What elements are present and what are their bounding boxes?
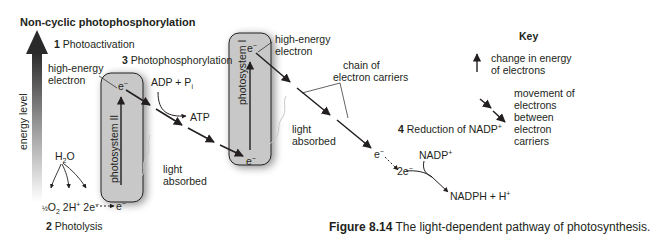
light-absorbed-label-2: lightabsorbed	[292, 123, 336, 147]
adp-label: ADP + Pi	[151, 76, 193, 88]
axis-label-energy: energy level	[17, 93, 29, 150]
key-item-electron-movement: movement of electrons between electron c…	[514, 87, 575, 147]
step-1-label: 1 Photoactivation	[54, 38, 135, 50]
high-energy-electron-label-1: high-energyelectron	[48, 62, 103, 86]
step-3-label: 3 Photophosphorylation	[122, 54, 232, 66]
key-item-energy-change: change in energyof electrons	[491, 52, 572, 76]
nadph-label: NADPH + H+	[450, 190, 510, 202]
electron-ps2-bottom: e−	[116, 200, 126, 212]
step-4-label: 4 Reduction of NADP+	[398, 123, 502, 135]
chain-of-carriers-label: chain ofelectron carriers	[333, 59, 408, 83]
nadp-label: NADP+	[419, 149, 452, 161]
photolysis-arrows	[51, 163, 86, 188]
nadp-merge	[423, 161, 448, 192]
key-dashed-arrow-icon	[480, 99, 505, 122]
two-e-label: 2e−	[397, 165, 413, 177]
chain-ps2-to-ps1	[126, 90, 243, 156]
key-title: Key	[519, 30, 538, 42]
step-2-label: 2 Photolysis	[46, 220, 103, 232]
products-label: ½O2 2H+ 2e−	[42, 201, 99, 215]
light-absorbed-label-1: lightabsorbed	[163, 163, 207, 187]
electron-ps1-bottom: e−	[246, 155, 256, 167]
energy-level-arrow	[26, 30, 48, 202]
figure-caption: Figure 8.14 The light-dependent pathway …	[329, 221, 650, 233]
photosystem-ii-label: photosystem II	[108, 115, 120, 183]
high-energy-electron-label-2: high-energyelectron	[275, 33, 330, 57]
electron-ps1-top: e−	[247, 42, 257, 54]
diagram-title: Non-cyclic photophosphorylation	[20, 16, 195, 28]
electron-chain-end: e−	[374, 148, 384, 160]
electron-ps2-top: e−	[118, 80, 128, 92]
atp-label: ATP	[190, 111, 210, 123]
water-label: H2O	[55, 150, 75, 162]
